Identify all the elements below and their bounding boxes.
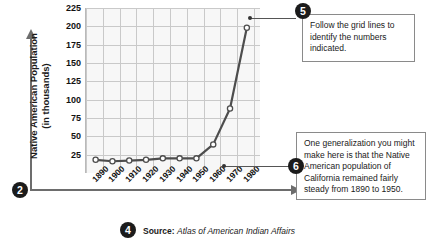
figure-marker-2-label: 2 bbox=[17, 184, 23, 196]
data-point bbox=[93, 157, 98, 162]
source-label: Source: bbox=[143, 226, 175, 236]
callout-marker-5-label: 5 bbox=[300, 5, 306, 17]
chart-plot-area bbox=[85, 8, 260, 173]
y-tick-label: 125 bbox=[41, 77, 81, 86]
data-point bbox=[143, 157, 148, 162]
callout-6-leader-line bbox=[224, 166, 292, 167]
y-tick-label: 100 bbox=[41, 96, 81, 105]
data-point bbox=[194, 156, 199, 161]
callout-5-leader-line bbox=[250, 18, 296, 19]
callout-6-leader-dot bbox=[222, 164, 226, 168]
x-axis-arrow bbox=[30, 189, 292, 191]
callout-box-5: Follow the grid lines to identify the nu… bbox=[302, 14, 415, 62]
callout-6-text: One generalization you might make here i… bbox=[304, 138, 415, 194]
data-point bbox=[110, 159, 115, 164]
data-point bbox=[160, 156, 165, 161]
figure-marker-4-label: 4 bbox=[125, 224, 131, 236]
y-tick-label: 225 bbox=[41, 4, 81, 13]
data-point bbox=[127, 158, 132, 163]
y-tick-label: 25 bbox=[41, 151, 81, 160]
y-tick-label: 75 bbox=[41, 114, 81, 123]
callout-marker-6-label: 6 bbox=[293, 160, 299, 172]
y-tick-label: 175 bbox=[41, 41, 81, 50]
callout-box-6: One generalization you might make here i… bbox=[296, 132, 426, 200]
data-point bbox=[177, 156, 182, 161]
y-tick-label: 50 bbox=[41, 132, 81, 141]
source-line: Source: Atlas of American Indian Affairs bbox=[143, 226, 295, 236]
callout-marker-6: 6 bbox=[288, 158, 304, 174]
graphic-organizer-figure: Native American Population (in thousands… bbox=[0, 0, 431, 239]
y-axis-title-line1: Native American Population bbox=[28, 33, 39, 159]
source-text: Atlas of American Indian Affairs bbox=[177, 226, 295, 236]
callout-marker-5: 5 bbox=[295, 3, 311, 19]
series-line bbox=[86, 8, 261, 173]
data-point bbox=[227, 106, 232, 111]
callout-5-text: Follow the grid lines to identify the nu… bbox=[310, 20, 395, 53]
y-tick-label: 150 bbox=[41, 59, 81, 68]
y-tick-label: 200 bbox=[41, 22, 81, 31]
data-point bbox=[244, 25, 249, 30]
figure-marker-4: 4 bbox=[120, 222, 136, 238]
data-point bbox=[211, 142, 216, 147]
callout-5-leader-dot bbox=[248, 16, 252, 20]
figure-marker-2: 2 bbox=[12, 182, 28, 198]
